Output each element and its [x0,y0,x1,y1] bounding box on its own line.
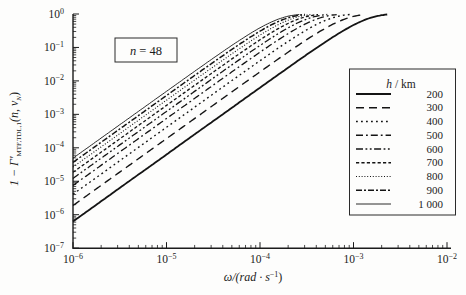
series-curve-h900 [73,15,305,163]
series-curve-h200 [73,15,387,222]
y-tick-label: 100 [49,7,65,21]
series-curve-h600 [73,15,327,179]
y-axis-label-main: 1 − Γ′ [7,156,21,186]
x-tick-label: 10−2 [437,252,457,266]
x-axis-label: ω/(rad · s−1) [224,270,283,284]
annotation-value: = 48 [136,44,162,58]
x-tick-label: 10−5 [156,252,176,266]
y-tick-label: 10−2 [44,73,64,87]
y-tick-label: 10−4 [44,140,64,154]
y-axis-label-close: ) [7,92,21,96]
series-curve-h500 [73,15,337,186]
series-curve-h800 [73,15,311,167]
legend-item-label: 800 [427,170,444,182]
x-tick-label: 10−3 [343,252,363,266]
scintillation-mtf-chart: 10−610−510−410−310−210010−110−210−310−41… [0,0,466,295]
x-axis-label-close: ) [278,270,282,284]
y-tick-label: 10−7 [44,241,64,255]
series-curve-h300 [73,15,365,206]
x-axis-label-main: ω/(rad · s [224,270,270,284]
y-tick-label: 10−5 [44,174,64,188]
legend-item-label: 300 [427,101,444,113]
x-tick-label: 10−4 [250,252,270,266]
series-curve-h1000 [73,15,299,159]
y-axis-label-args: (n, v [7,100,21,122]
legend: h / km 2003004005006007008009001 000 [350,69,456,215]
y-axis-label-subscript: MTF,TDL,1 [15,121,23,156]
legend-title-unit: / km [392,78,416,90]
chart-canvas: 10−610−510−410−310−210010−110−210−310−41… [0,0,466,295]
y-tick-label: 10−6 [44,207,64,221]
annotation-box: n = 48 [115,38,177,62]
curve-series-group [73,15,387,222]
legend-item-label: 900 [427,184,444,196]
x-tick-label: 10−6 [63,252,83,266]
legend-item-label: 600 [427,143,444,155]
legend-item-label: 700 [427,156,444,168]
legend-item-label: 1 000 [418,198,443,210]
legend-item-label: 200 [427,88,444,100]
legend-title: h / km [386,78,415,90]
y-tick-label: 10−3 [44,107,64,121]
x-axis-label-exponent: −1 [270,270,279,279]
y-axis-label: 1 − Γ′MTF,TDL,1(n, vN) [7,92,23,186]
y-tick-label: 10−1 [44,40,64,54]
legend-item-label: 400 [427,115,444,127]
annotation-text: n = 48 [130,44,162,58]
legend-item-label: 500 [427,129,444,141]
